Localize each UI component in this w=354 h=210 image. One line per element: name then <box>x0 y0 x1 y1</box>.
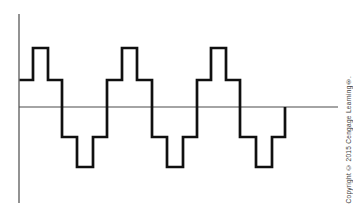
waveform-plot <box>0 0 354 210</box>
copyright-notice: Copyright © 2015 Cengage Learning®. <box>345 76 352 204</box>
waveform-figure: Copyright © 2015 Cengage Learning®. <box>0 0 354 210</box>
